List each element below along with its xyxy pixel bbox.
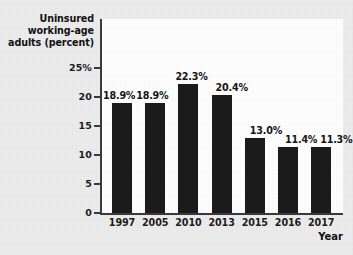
bar-2015[interactable] <box>245 138 265 213</box>
bar-value-label-2015: 13.0% <box>250 125 282 136</box>
bar-value-label-2016: 11.4% <box>285 134 317 145</box>
bar-2016[interactable] <box>278 147 298 213</box>
bar-value-label-2010: 22.3% <box>175 71 207 82</box>
bars-layer: 18.9%18.9%22.3%20.4%13.0%11.4%11.3% <box>0 0 353 213</box>
x-axis-title: Year <box>305 231 343 242</box>
bar-chart-figure: Uninsured working-age adults (percent) 0… <box>0 0 353 255</box>
bar-2013[interactable] <box>212 95 232 213</box>
bar-2017[interactable] <box>311 147 331 213</box>
x-axis-line <box>100 213 343 215</box>
bar-value-label-2005: 18.9% <box>136 90 168 101</box>
bar-2010[interactable] <box>178 84 198 213</box>
bar-1997[interactable] <box>112 103 132 213</box>
bar-value-label-2013: 20.4% <box>216 82 248 93</box>
x-tick-label-2017: 2017 <box>301 217 341 228</box>
bar-value-label-1997: 18.9% <box>103 90 135 101</box>
bar-2005[interactable] <box>145 103 165 213</box>
bar-value-label-2017: 11.3% <box>320 134 352 145</box>
